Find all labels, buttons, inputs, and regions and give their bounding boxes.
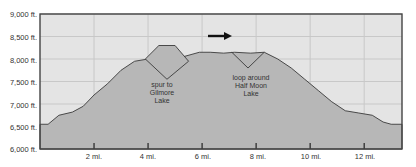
x-label: 10 mi. bbox=[296, 152, 326, 161]
annotation-line: Gilmore bbox=[137, 89, 187, 97]
annotation-line: Lake bbox=[226, 90, 276, 98]
x-label: 8 mi. bbox=[243, 152, 273, 161]
y-label: 8,000 ft. bbox=[0, 56, 37, 65]
annotation-line: Lake bbox=[137, 97, 187, 105]
elevation-profile-chart bbox=[0, 0, 416, 167]
y-label: 7,500 ft. bbox=[0, 78, 37, 87]
y-label: 7,000 ft. bbox=[0, 101, 37, 110]
y-label: 6,500 ft. bbox=[0, 123, 37, 132]
x-label: 12 mi. bbox=[350, 152, 380, 161]
y-label: 6,000 ft. bbox=[0, 145, 37, 154]
annotation-half-moon-loop: loop around Half Moon Lake bbox=[226, 74, 276, 98]
annotation-line: Half Moon bbox=[226, 82, 276, 90]
annotation-line: loop around bbox=[226, 74, 276, 82]
y-label: 8,500 ft. bbox=[0, 33, 37, 42]
y-label: 9,000 ft. bbox=[0, 10, 37, 19]
x-label: 6 mi. bbox=[188, 152, 218, 161]
annotation-line: spur to bbox=[137, 81, 187, 89]
x-label: 4 mi. bbox=[133, 152, 163, 161]
annotation-gilmore-spur: spur to Gilmore Lake bbox=[137, 81, 187, 105]
x-label: 2 mi. bbox=[79, 152, 109, 161]
